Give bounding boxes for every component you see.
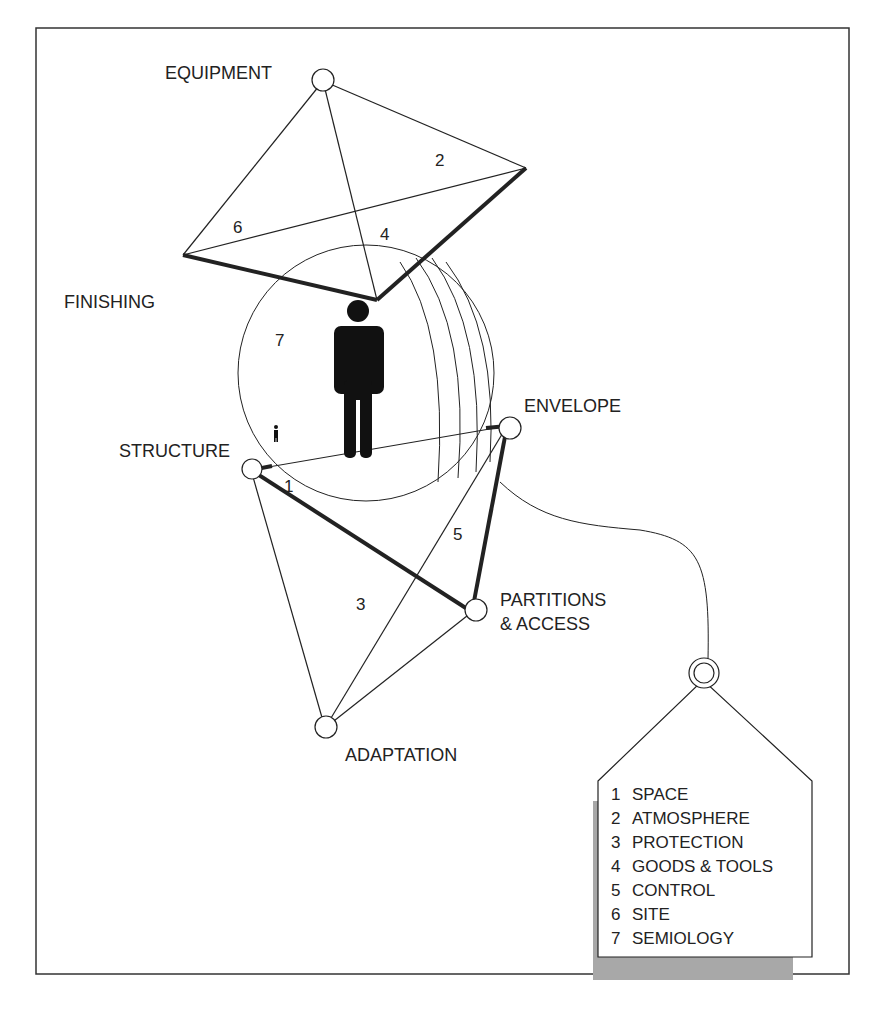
label-partitions-line1: PARTITIONS bbox=[500, 590, 606, 610]
face-number-2: 2 bbox=[435, 151, 444, 170]
face-number-7: 7 bbox=[275, 331, 284, 350]
legend-item-6: 6SITE bbox=[611, 905, 670, 924]
face-number-5: 5 bbox=[453, 525, 462, 544]
label-partitions-line2: & ACCESS bbox=[500, 614, 590, 634]
node-envelope bbox=[499, 417, 521, 439]
label-equipment: EQUIPMENT bbox=[165, 63, 272, 83]
node-partitions bbox=[465, 599, 487, 621]
label-envelope: ENVELOPE bbox=[524, 396, 621, 416]
label-adaptation: ADAPTATION bbox=[345, 745, 457, 765]
legend-item-2: 2ATMOSPHERE bbox=[611, 809, 750, 828]
building-layers-diagram: EQUIPMENT FINISHING ENVELOPE STRUCTURE P… bbox=[0, 0, 869, 1033]
node-adaptation bbox=[315, 716, 337, 738]
face-number-4: 4 bbox=[380, 225, 389, 244]
node-equipment bbox=[312, 69, 334, 91]
face-number-1: 1 bbox=[284, 477, 293, 496]
legend-item-4: 4GOODS & TOOLS bbox=[611, 857, 773, 876]
label-structure: STRUCTURE bbox=[119, 441, 230, 461]
face-number-6: 6 bbox=[233, 218, 242, 237]
node-structure bbox=[242, 459, 262, 479]
label-finishing: FINISHING bbox=[64, 292, 155, 312]
face-number-3: 3 bbox=[356, 595, 365, 614]
